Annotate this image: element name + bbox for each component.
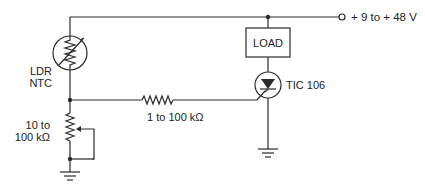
sensor-label-ntc: NTC xyxy=(29,77,52,89)
gate-resistor-icon xyxy=(142,96,173,104)
supply-rail xyxy=(70,14,345,20)
supply-terminal-icon xyxy=(339,14,345,20)
pot-label-range-start: 10 to xyxy=(26,119,50,131)
pot-label-range-end: 100 kΩ xyxy=(15,131,50,143)
sensor-label-ldr: LDR xyxy=(30,65,52,77)
scr-label: TIC 106 xyxy=(286,79,325,91)
left-ground-icon xyxy=(60,172,80,180)
ldr-ntc-sensor-icon xyxy=(53,36,87,70)
gate-resistor-label: 1 to 100 kΩ xyxy=(147,111,204,123)
scr-ground-icon xyxy=(258,149,278,157)
supply-voltage-label: + 9 to + 48 V xyxy=(351,11,417,23)
load-label: LOAD xyxy=(253,37,283,49)
circuit-schematic: + 9 to + 48 V LDR NTC 1 to 100 kΩ 10 to … xyxy=(0,0,425,192)
scr-thyristor-icon xyxy=(255,72,281,98)
